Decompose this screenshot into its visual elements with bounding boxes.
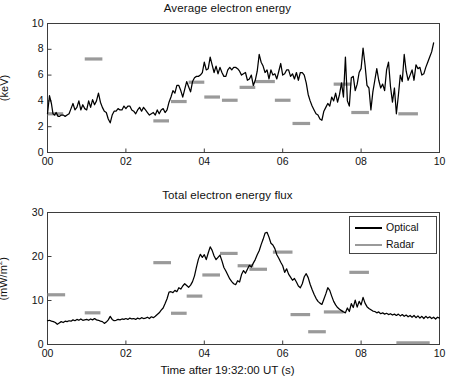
legend-entry-radar: Radar bbox=[350, 236, 438, 253]
plot-group-top bbox=[48, 24, 440, 153]
y-tick-label-8-p0: 8 bbox=[22, 42, 44, 54]
y-tick-label-4-p0: 4 bbox=[22, 94, 44, 106]
x-tick-label-10-p1: 10 bbox=[427, 347, 453, 359]
y-tick-label-10-p1: 10 bbox=[22, 294, 44, 306]
y-tick-label-20-p1: 20 bbox=[22, 250, 44, 262]
y-tick-label-10-p0: 10 bbox=[22, 17, 44, 29]
legend-label-optical: Optical bbox=[386, 221, 419, 233]
radar-bars-bottom bbox=[48, 252, 430, 343]
x-tick-label-08-p1: 08 bbox=[348, 347, 374, 359]
x-tick-label-04-p1: 04 bbox=[191, 347, 217, 359]
y-tick-label-0-p1: 0 bbox=[22, 338, 44, 350]
y-tick-label-6-p0: 6 bbox=[22, 68, 44, 80]
legend-swatch-radar-icon bbox=[355, 244, 382, 246]
x-tick-label-04-p0: 04 bbox=[191, 155, 217, 167]
y-tick-label-30-p1: 30 bbox=[22, 206, 44, 218]
y-tick-label-0-p0: 0 bbox=[22, 146, 44, 158]
x-tick-label-08-p0: 08 bbox=[348, 155, 374, 167]
x-tick-label-10-p0: 10 bbox=[427, 155, 453, 167]
legend-entry-optical: Optical bbox=[350, 219, 438, 236]
x-tick-label-02-p0: 02 bbox=[113, 155, 139, 167]
legend-box: Optical Radar bbox=[349, 216, 437, 254]
plot-canvas bbox=[0, 0, 455, 386]
x-tick-label-06-p0: 06 bbox=[270, 155, 296, 167]
optical-trace-top bbox=[48, 43, 434, 123]
figure-container: Average electron energy (keV) Total elec… bbox=[0, 0, 455, 386]
x-tick-label-02-p1: 02 bbox=[113, 347, 139, 359]
y-tick-label-2-p0: 2 bbox=[22, 120, 44, 132]
legend-swatch-optical-icon bbox=[355, 227, 382, 229]
x-tick-label-06-p1: 06 bbox=[270, 347, 296, 359]
legend-label-radar: Radar bbox=[386, 238, 415, 250]
